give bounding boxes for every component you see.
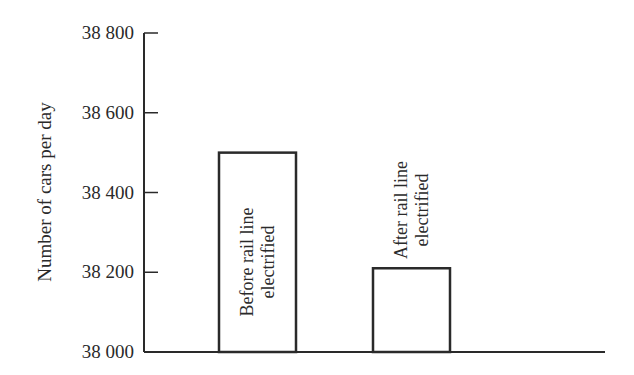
bar-label: Before rail lineelectrified	[237, 208, 279, 317]
bar-after	[373, 268, 450, 352]
y-tick-label: 38 800	[24, 23, 134, 42]
bar-label: After rail lineelectrified	[391, 161, 433, 259]
y-tick-label: 38 000	[24, 342, 134, 361]
bar-chart: 38 00038 20038 40038 60038 800 Number of…	[0, 0, 634, 375]
y-axis-label: Number of cars per day	[34, 102, 56, 281]
